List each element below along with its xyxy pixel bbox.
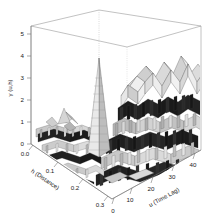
u-tick-40: 40 — [190, 161, 197, 168]
persp-surface-chart: 5 4 3 2 1 0 γ (u,h) 0.0 0.1 0.2 0.3 h (D… — [0, 0, 215, 222]
persp-plot-root: 5 4 3 2 1 0 γ (u,h) 0.0 0.1 0.2 0.3 h (D… — [0, 0, 215, 222]
z-tick-4: 4 — [21, 52, 25, 59]
u-tick-30: 30 — [169, 173, 176, 180]
u-tick-10: 10 — [127, 196, 134, 203]
u-tick-0: 0 — [111, 207, 115, 214]
h-tick-2: 0.2 — [71, 184, 80, 191]
z-tick-1: 1 — [21, 118, 25, 125]
z-tick-3: 3 — [21, 74, 25, 81]
z-tick-5: 5 — [21, 30, 25, 37]
z-axis-title: γ (u,h) — [7, 79, 13, 96]
h-tick-3: 0.3 — [96, 201, 105, 208]
z-tick-2: 2 — [21, 96, 25, 103]
u-tick-20: 20 — [148, 185, 155, 192]
h-tick-1: 0.1 — [46, 167, 55, 174]
h-tick-0: 0.0 — [21, 150, 30, 157]
z-tick-0: 0 — [21, 140, 25, 147]
